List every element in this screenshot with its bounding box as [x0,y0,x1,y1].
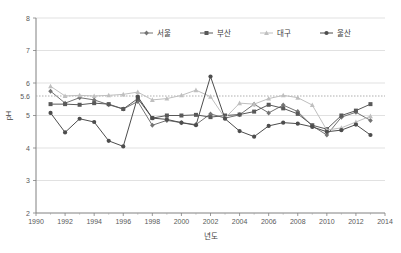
series-point-1 [121,107,125,111]
series-point-3 [136,95,140,99]
x-axis-tick-label: 2008 [290,218,306,225]
y-axis-tick-label: 5 [26,112,30,119]
x-axis-tick-label: 2010 [319,218,335,225]
legend-label-0: 서울 [157,29,171,38]
series-point-3 [48,111,52,115]
series-point-3 [150,116,154,120]
x-axis-tick-label: 2012 [348,218,364,225]
legend-marker-3 [324,31,328,35]
x-axis-tick-label: 2000 [174,218,190,225]
series-point-1 [281,106,285,110]
series-point-3 [368,133,372,137]
series-point-1 [209,115,213,119]
y-axis-title: pH [4,111,13,121]
x-axis-tick-label: 2006 [261,218,277,225]
y-axis-tick-label: 7 [26,47,30,54]
series-point-3 [296,122,300,126]
x-axis-tick-label: 2002 [203,218,219,225]
y-axis-tick-label: 4 [26,145,30,152]
series-point-3 [339,128,343,132]
series-point-3 [252,135,256,139]
series-point-3 [165,117,169,121]
x-axis-tick-label: 1994 [86,218,102,225]
series-point-3 [107,139,111,143]
series-point-1 [194,113,198,117]
series-point-3 [78,117,82,121]
series-point-1 [165,114,169,118]
series-point-3 [325,130,329,134]
series-point-3 [121,144,125,148]
series-point-1 [296,112,300,116]
series-point-1 [107,102,111,106]
series-point-1 [252,110,256,114]
x-axis-tick-label: 2014 [377,218,393,225]
y-axis-tick-label: 2 [26,210,30,217]
line-chart: 2345678199019921994199619982000200220042… [0,0,401,253]
series-point-3 [237,129,241,133]
legend-label-3: 울산 [337,28,351,38]
series-point-1 [238,113,242,117]
series-point-1 [63,102,67,106]
series-point-1 [179,114,183,118]
y-axis-tick-label: 6 [26,80,30,87]
series-point-1 [78,103,82,107]
series-point-1 [354,109,358,113]
chart-container: 2345678199019921994199619982000200220042… [0,0,401,253]
series-point-1 [339,114,343,118]
x-axis-tick-label: 1992 [57,218,73,225]
x-axis-tick-label: 1996 [115,218,131,225]
legend-marker-1 [205,31,209,35]
series-point-3 [281,121,285,125]
series-point-3 [92,120,96,124]
x-axis-tick-label: 1998 [145,218,161,225]
y-axis-tick-label: 3 [26,177,30,184]
legend-label-1: 부산 [217,28,231,38]
reference-line-label: 5.6 [20,93,30,100]
x-axis-tick-label: 2004 [232,218,248,225]
series-point-3 [179,121,183,125]
series-point-3 [63,130,67,134]
y-axis-tick-label: 8 [26,15,30,22]
series-point-3 [354,123,358,127]
series-point-3 [208,74,212,78]
series-point-1 [368,102,372,106]
series-point-3 [194,123,198,127]
legend-label-2: 대구 [277,29,291,38]
x-axis-title: 년도 [204,231,218,241]
series-point-1 [92,101,96,105]
series-point-1 [267,103,271,107]
x-axis-tick-label: 1990 [28,218,44,225]
series-point-1 [49,102,53,106]
series-point-3 [223,117,227,121]
series-point-3 [310,125,314,129]
series-point-3 [267,124,271,128]
